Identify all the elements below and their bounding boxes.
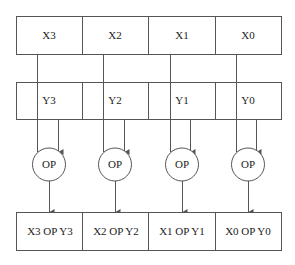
- result-cell-1: X1 OP Y1: [159, 225, 205, 237]
- op-units: OP OP OP OP: [33, 148, 265, 181]
- x-cell-0: X0: [241, 29, 255, 41]
- op-label-0: OP: [241, 158, 255, 170]
- result-cell-3: X3 OP Y3: [27, 225, 73, 237]
- output-wires: [50, 181, 249, 212]
- x-cell-3: X3: [42, 29, 56, 41]
- result-register: X3 OP Y3 X2 OP Y2 X1 OP Y1 X0 OP Y0: [17, 213, 282, 251]
- y-cell-0: Y0: [241, 94, 255, 106]
- x-cell-1: X1: [175, 29, 188, 41]
- y-cell-2: Y2: [108, 94, 121, 106]
- op-label-2: OP: [108, 158, 122, 170]
- x-wires: [38, 55, 237, 153]
- x-register: X3 X2 X1 X0: [17, 17, 282, 55]
- y-wires: [59, 120, 257, 153]
- result-cell-0: X0 OP Y0: [225, 225, 271, 237]
- simd-diagram: X3 X2 X1 X0 Y3 Y2 Y1 Y0 OP OP OP OP: [0, 0, 295, 265]
- op-label-3: OP: [42, 158, 56, 170]
- x-cell-2: X2: [108, 29, 121, 41]
- result-cell-2: X2 OP Y2: [93, 225, 139, 237]
- y-register: Y3 Y2 Y1 Y0: [17, 83, 282, 120]
- y-cell-3: Y3: [42, 94, 56, 106]
- op-label-1: OP: [175, 158, 189, 170]
- y-cell-1: Y1: [175, 94, 188, 106]
